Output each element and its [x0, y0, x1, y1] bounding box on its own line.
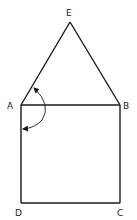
label-A: A — [7, 101, 14, 111]
segment-AE — [21, 22, 70, 105]
label-B: B — [123, 101, 129, 111]
geometry-diagram: E A B D C — [0, 0, 137, 220]
label-E: E — [66, 8, 72, 18]
label-C: C — [117, 208, 123, 218]
segment-EB — [70, 22, 120, 105]
label-D: D — [15, 208, 22, 218]
angle-arc-arrow — [23, 88, 46, 129]
